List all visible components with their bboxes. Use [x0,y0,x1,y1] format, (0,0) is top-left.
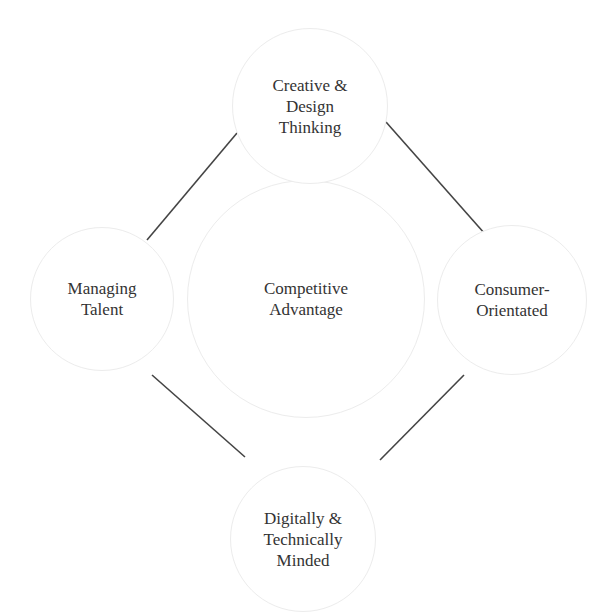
node-left-label: Managing Talent [68,278,137,320]
node-right-label: Consumer- Orientated [474,279,549,321]
center-node-label: Competitive Advantage [264,278,348,320]
node-managing-talent: Managing Talent [30,227,174,371]
node-consumer-orientated: Consumer- Orientated [437,225,587,375]
center-node-competitive-advantage: Competitive Advantage [187,180,425,418]
connector-top-right [386,122,485,234]
node-digitally-technically-minded: Digitally & Technically Minded [230,466,376,612]
node-bottom-label: Digitally & Technically Minded [263,508,342,571]
node-creative-design-thinking: Creative & Design Thinking [232,28,388,184]
connector-right-bottom [380,375,464,460]
node-top-label: Creative & Design Thinking [272,75,347,138]
